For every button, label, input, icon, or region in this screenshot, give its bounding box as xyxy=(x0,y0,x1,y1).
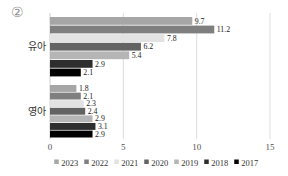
bar-2018-영아 xyxy=(50,123,95,130)
x-tick-5: 5 xyxy=(121,142,126,152)
chart-figure: ② 9.711.27.86.25.42.92.1유아1.82.12.32.42.… xyxy=(0,0,288,176)
legend-label-2018: 2018 xyxy=(211,158,228,168)
legend-label-2023: 2023 xyxy=(61,158,78,168)
bar-2021-영아 xyxy=(50,100,84,107)
legend-marker-2021 xyxy=(114,160,119,165)
bar-2022-유아 xyxy=(50,26,214,34)
category-label-유아: 유아 xyxy=(28,41,46,52)
value-label-2020-유아: 6.2 xyxy=(143,42,153,51)
bar-2021-유아 xyxy=(50,34,164,42)
value-label-2017-영아: 2.9 xyxy=(95,130,105,139)
value-label-2021-유아: 7.8 xyxy=(167,34,177,43)
legend-marker-2023 xyxy=(54,160,59,165)
bar-2023-영아 xyxy=(50,85,76,92)
value-label-2017-유아: 2.1 xyxy=(83,68,93,77)
x-tick-0: 0 xyxy=(48,142,53,152)
legend-label-2021: 2021 xyxy=(121,158,138,168)
bar-2017-영아 xyxy=(50,131,93,138)
legend-label-2017: 2017 xyxy=(241,158,258,168)
value-label-2018-유아: 2.9 xyxy=(95,60,105,69)
legend-marker-2022 xyxy=(84,160,89,165)
legend-label-2020: 2020 xyxy=(151,158,168,168)
bar-2019-영아 xyxy=(50,115,93,122)
value-label-2019-유아: 5.4 xyxy=(132,51,142,60)
bar-2022-영아 xyxy=(50,93,81,100)
legend-marker-2019 xyxy=(174,160,179,165)
legend-marker-2017 xyxy=(234,160,239,165)
value-label-2022-유아: 11.2 xyxy=(217,25,230,34)
bar-2017-유아 xyxy=(50,69,81,77)
bar-2020-영아 xyxy=(50,108,85,115)
category-label-영아: 영아 xyxy=(28,106,46,117)
bar-chart: 9.711.27.86.25.42.92.1유아1.82.12.32.42.93… xyxy=(0,0,288,176)
x-tick-15: 15 xyxy=(266,142,276,152)
legend-marker-2020 xyxy=(144,160,149,165)
legend-label-2022: 2022 xyxy=(91,158,108,168)
bar-2023-유아 xyxy=(50,17,192,25)
value-label-2023-유아: 9.7 xyxy=(195,17,205,26)
bar-2018-유아 xyxy=(50,60,93,68)
legend-label-2019: 2019 xyxy=(181,158,198,168)
legend-marker-2018 xyxy=(204,160,209,165)
bar-2019-유아 xyxy=(50,51,129,59)
x-tick-10: 10 xyxy=(192,142,202,152)
bar-2020-유아 xyxy=(50,43,141,51)
